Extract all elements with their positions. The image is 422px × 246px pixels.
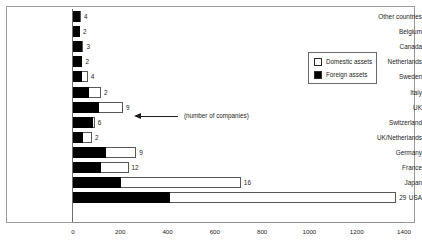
annotation-text: (number of companies) [184, 110, 249, 122]
x-tick-label: 1400 [397, 228, 411, 235]
bar-value-label: 29 [399, 190, 406, 205]
bar-segment-foreign [73, 192, 170, 203]
category-label: Switzerland [356, 115, 422, 130]
category-label: Japan [356, 175, 422, 190]
bar-segment-foreign [73, 147, 106, 158]
bar-segment-foreign [73, 71, 82, 82]
category-label: Other countries [356, 9, 422, 24]
bar-value-label: 2 [85, 54, 89, 69]
x-tick-label: 1200 [350, 228, 364, 235]
bar-value-label: 6 [98, 115, 102, 130]
bar-value-label: 2 [95, 130, 99, 145]
bar-value-label: 16 [244, 175, 251, 190]
bar-row: France12 [0, 160, 422, 175]
value-axis-line [72, 222, 404, 223]
bar-segment-foreign [73, 117, 93, 128]
bar-segment-foreign [73, 56, 82, 67]
x-tick-label: 1000 [303, 228, 317, 235]
bar-row: Germany9 [0, 145, 422, 160]
bar-row: Other countries4 [0, 9, 422, 24]
bar-value-label: 4 [91, 69, 95, 84]
legend-label-foreign: Foreign assets [326, 69, 367, 81]
bar-segment-foreign [73, 162, 101, 173]
bar-row: Japan16 [0, 175, 422, 190]
legend-label-domestic: Domestic assets [326, 56, 372, 68]
bar-value-label: 12 [132, 160, 139, 175]
bar-row: USA29 [0, 190, 422, 205]
x-tick-label: 0 [71, 228, 74, 235]
category-label: UK/Netherlands [356, 130, 422, 145]
bar-segment-foreign [73, 26, 80, 37]
chart-legend: Domestic assets Foreign assets [308, 52, 377, 84]
chart-screenshot: Other countries4Belgium2Canada3Netherlan… [0, 0, 422, 246]
bar-segment-foreign [73, 102, 99, 113]
legend-swatch-foreign-icon [314, 71, 322, 79]
x-tick-label: 800 [257, 228, 267, 235]
bar-row: Belgium2 [0, 24, 422, 39]
bar-value-label: 2 [104, 85, 108, 100]
category-label: UK [356, 100, 422, 115]
category-label: Italy [356, 85, 422, 100]
bar-segment-foreign [73, 11, 80, 22]
category-label: Belgium [356, 24, 422, 39]
category-label: Germany [356, 145, 422, 160]
annotation-leader-line [140, 116, 178, 117]
bar-segment-foreign [73, 41, 82, 52]
bar-value-label: 3 [86, 39, 90, 54]
bar-value-label: 2 [83, 24, 87, 39]
legend-swatch-domestic-icon [314, 58, 322, 66]
bar-value-label: 9 [126, 100, 130, 115]
bar-segment-foreign [73, 87, 89, 98]
bar-value-label: 4 [84, 9, 88, 24]
bar-value-label: 9 [139, 145, 143, 160]
category-label: France [356, 160, 422, 175]
bar-row: UK/Netherlands2 [0, 130, 422, 145]
x-tick-label: 600 [210, 228, 220, 235]
x-tick-label: 200 [115, 228, 125, 235]
x-tick-label: 400 [162, 228, 172, 235]
bar-segment-foreign [73, 132, 83, 143]
bar-row: Italy2 [0, 85, 422, 100]
bar-segment-foreign [73, 177, 121, 188]
